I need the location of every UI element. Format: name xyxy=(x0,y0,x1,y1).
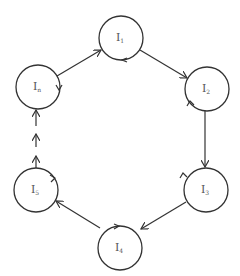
edge-i4-to-i5 xyxy=(56,201,100,228)
node-i4: I4 xyxy=(98,226,142,270)
node-i2: I2 xyxy=(185,67,229,111)
node-i5: I5 xyxy=(14,168,58,212)
cycle-diagram: I1 I2 I3 I4 I5 In xyxy=(0,0,240,276)
edge-i1-to-i2 xyxy=(140,50,187,78)
perimeter-arrow-icons xyxy=(50,58,194,229)
edge-in-to-i1 xyxy=(57,50,101,76)
node-i3: I3 xyxy=(184,168,228,212)
node-in: In xyxy=(16,65,60,109)
arrowhead-icon xyxy=(180,173,187,178)
edge-i3-to-i4 xyxy=(141,202,186,229)
node-i1: I1 xyxy=(99,16,143,60)
